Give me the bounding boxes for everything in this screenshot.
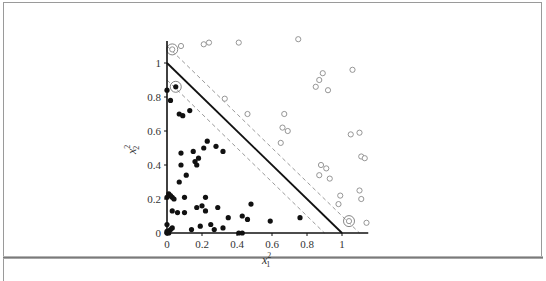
y-tick-label: 0.4	[147, 159, 161, 171]
hollow-data-point	[350, 67, 355, 72]
x-tick-label: 0	[164, 238, 170, 250]
hollow-data-point	[357, 188, 362, 193]
hollow-data-point	[364, 220, 369, 225]
hollow-data-point	[245, 111, 250, 116]
filled-data-point	[198, 224, 203, 229]
filled-data-point	[184, 173, 189, 178]
filled-data-point	[187, 108, 192, 113]
filled-data-point	[240, 213, 245, 218]
filled-data-point	[180, 113, 185, 118]
hollow-data-point	[201, 42, 206, 47]
filled-data-point	[182, 195, 187, 200]
hollow-data-point	[282, 111, 287, 116]
hollow-data-point	[178, 43, 183, 48]
filled-data-point	[203, 208, 208, 213]
y-tick-label: 1	[156, 57, 162, 69]
filled-data-point	[178, 151, 183, 156]
filled-data-point	[220, 225, 225, 230]
filled-data-point	[189, 227, 194, 232]
y-tick-label: 0.8	[147, 91, 161, 103]
hollow-data-point	[327, 176, 332, 181]
x-tick-label: 0.6	[265, 238, 279, 250]
filled-data-point	[182, 210, 187, 215]
x-tick-label: 0.2	[195, 238, 209, 250]
filled-data-point	[170, 225, 175, 230]
x-tick-label: 0.8	[300, 238, 314, 250]
filled-data-point	[205, 139, 210, 144]
x-tick-label: 0.4	[230, 238, 244, 250]
filled-data-point	[177, 179, 182, 184]
hollow-data-point	[325, 88, 330, 93]
filled-data-point	[173, 84, 178, 89]
filled-data-point	[201, 145, 206, 150]
hollow-data-point	[206, 40, 211, 45]
margin-line	[167, 80, 325, 233]
hollow-data-point	[296, 37, 301, 42]
hollow-data-point	[170, 47, 175, 52]
filled-data-point	[268, 219, 273, 224]
filled-data-point	[196, 156, 201, 161]
filled-data-point	[297, 215, 302, 220]
filled-data-point	[171, 196, 176, 201]
filled-data-point	[199, 203, 204, 208]
filled-data-point	[175, 210, 180, 215]
filled-data-point	[248, 202, 253, 207]
hollow-data-point	[318, 162, 323, 167]
filled-data-point	[194, 205, 199, 210]
hollow-data-point	[313, 84, 318, 89]
hollow-data-point	[336, 202, 341, 207]
filled-data-point	[226, 215, 231, 220]
data-points	[164, 37, 369, 236]
filled-data-point	[208, 222, 213, 227]
hollow-data-point	[346, 219, 351, 224]
scatter-plot: 00.20.40.60.8100.20.40.60.81 x21 x22	[0, 0, 546, 281]
hollow-data-point	[236, 40, 241, 45]
hollow-data-point	[357, 130, 362, 135]
filled-data-point	[168, 98, 173, 103]
hollow-data-point	[320, 71, 325, 76]
hollow-data-point	[285, 128, 290, 133]
y-tick-label: 0	[156, 227, 162, 239]
x-tick-label: 1	[339, 238, 345, 250]
hollow-data-point	[362, 156, 367, 161]
hollow-data-point	[222, 96, 227, 101]
margin-line	[167, 46, 360, 233]
y-axis-label: x22	[123, 145, 141, 155]
svg-text:x22: x22	[123, 145, 141, 155]
y-tick-label: 0.6	[147, 125, 161, 137]
hollow-data-point	[348, 132, 353, 137]
hollow-data-point	[317, 173, 322, 178]
hollow-data-point	[324, 166, 329, 171]
hollow-data-point	[359, 196, 364, 201]
filled-data-point	[212, 227, 217, 232]
boundary-lines	[167, 46, 360, 233]
filled-data-point	[178, 162, 183, 167]
x-axis-label: x21	[261, 251, 271, 269]
filled-data-point	[245, 217, 250, 222]
y-tick-label: 0.2	[147, 193, 161, 205]
filled-data-point	[191, 149, 196, 154]
filled-data-point	[203, 195, 208, 200]
filled-data-point	[170, 208, 175, 213]
hollow-data-point	[338, 193, 343, 198]
filled-data-point	[194, 162, 199, 167]
hollow-data-point	[280, 125, 285, 130]
filled-data-point	[213, 144, 218, 149]
hollow-data-point	[317, 77, 322, 82]
filled-data-point	[215, 205, 220, 210]
hollow-data-point	[278, 140, 283, 145]
filled-data-point	[220, 149, 225, 154]
